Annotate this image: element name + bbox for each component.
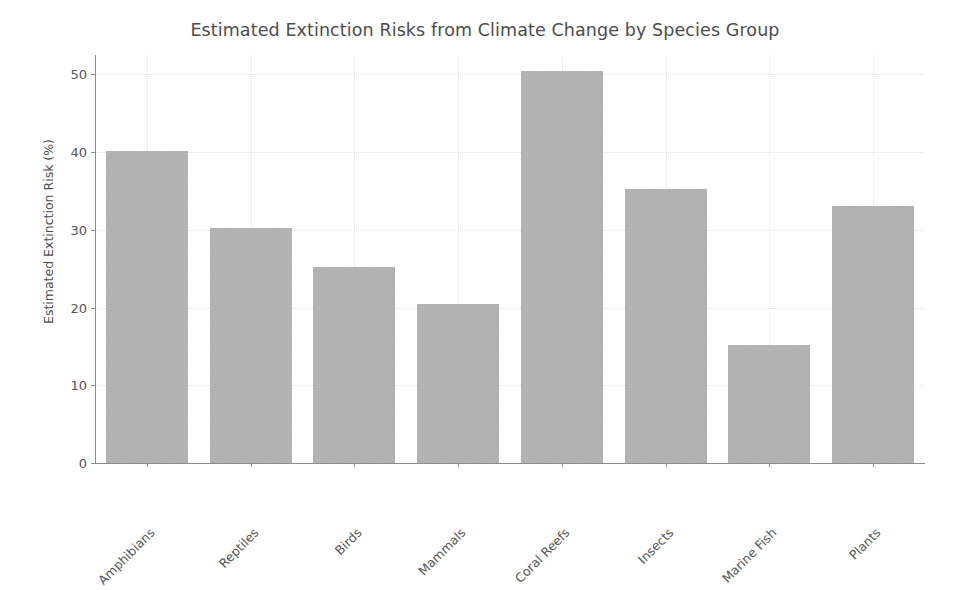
y-axis-label: Estimated Extinction Risk (%) (36, 0, 62, 463)
x-axis-spine (95, 463, 925, 464)
gridline-horizontal (95, 152, 925, 153)
y-tick-label: 0 (79, 456, 87, 471)
y-tick-label: 20 (70, 300, 87, 315)
gridline-horizontal (95, 74, 925, 75)
y-tick-label: 50 (70, 67, 87, 82)
y-tick-label: 40 (70, 145, 87, 160)
y-tick-label: 30 (70, 222, 87, 237)
bar[interactable] (106, 151, 188, 463)
y-tick-label: 10 (70, 378, 87, 393)
bar[interactable] (728, 345, 810, 463)
plot-area: 01020304050 AmphibiansReptilesBirdsMamma… (95, 55, 925, 463)
bar[interactable] (521, 71, 603, 463)
bar[interactable] (313, 267, 395, 463)
x-tick-label: Amphibians (5, 525, 157, 590)
bar[interactable] (832, 206, 914, 463)
chart-title: Estimated Extinction Risks from Climate … (0, 20, 970, 40)
bar[interactable] (625, 189, 707, 463)
bar[interactable] (210, 228, 292, 463)
bar[interactable] (417, 304, 499, 463)
y-axis-spine (95, 55, 96, 464)
